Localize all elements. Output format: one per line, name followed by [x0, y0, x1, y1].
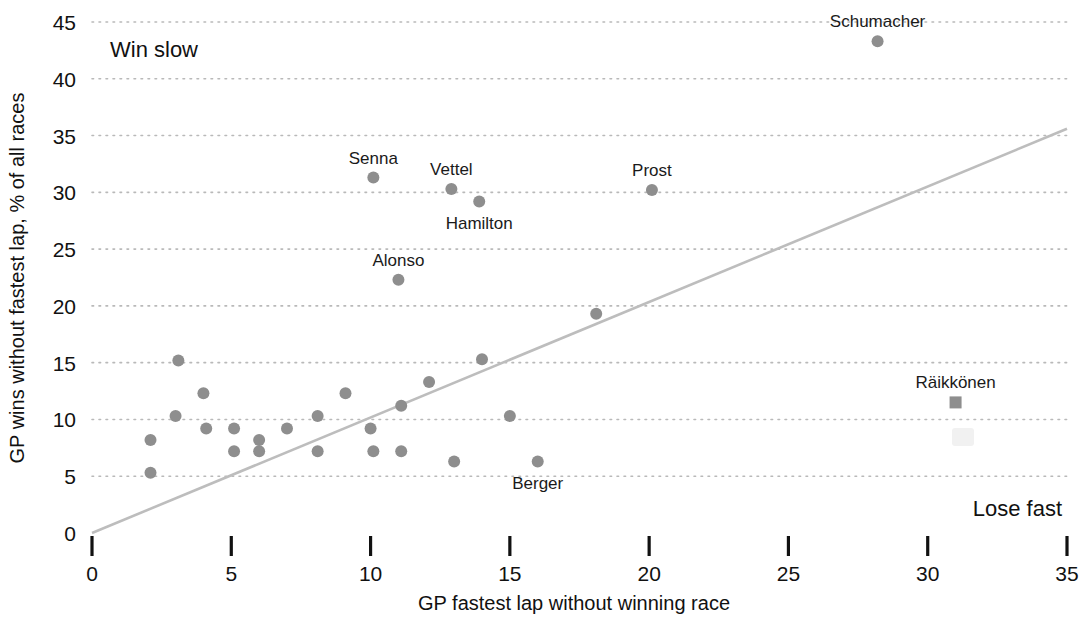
x-tick-label-35: 35: [1055, 562, 1078, 585]
data-point-unnamed-11-7[interactable]: [395, 445, 407, 457]
annotation-lose-fast: Lose fast: [973, 496, 1062, 521]
x-axis-title: GP fastest lap without winning race: [418, 592, 730, 614]
y-tick-label-10: 10: [53, 408, 76, 431]
data-point-Schumacher[interactable]: [872, 35, 884, 47]
data-point-label-Berger: Berger: [512, 474, 563, 493]
x-tick-label-20: 20: [637, 562, 660, 585]
x-tick-label-25: 25: [777, 562, 800, 585]
data-point-labels: SchumacherSennaVettelProstHamiltonAlonso…: [349, 12, 996, 493]
faint-mark: [952, 428, 974, 446]
data-point-label-Schumacher: Schumacher: [830, 12, 926, 31]
data-point-unnamed-3-15[interactable]: [172, 354, 184, 366]
y-tick-label-0: 0: [64, 522, 76, 545]
y-tick-label-30: 30: [53, 181, 76, 204]
data-point-unnamed-6-7[interactable]: [253, 445, 265, 457]
gridlines: [92, 22, 1067, 476]
x-axis-ticks: [92, 536, 1067, 556]
annotation-win-slow: Win slow: [110, 37, 198, 62]
data-point-unnamed-9-12[interactable]: [340, 387, 352, 399]
data-point-Alonso[interactable]: [392, 274, 404, 286]
scatter-chart: 051015202530354045 05101520253035 Schuma…: [0, 0, 1086, 623]
data-point-unnamed-15-10[interactable]: [504, 410, 516, 422]
data-point-unnamed-5-9[interactable]: [228, 423, 240, 435]
x-tick-label-10: 10: [359, 562, 382, 585]
data-point-unnamed-11-11[interactable]: [395, 400, 407, 412]
data-point-unnamed-6-8[interactable]: [253, 434, 265, 446]
data-point-unnamed-2-5[interactable]: [145, 467, 157, 479]
y-axis-tick-labels: 051015202530354045: [53, 11, 76, 545]
data-point-unnamed-12-13[interactable]: [423, 376, 435, 388]
x-tick-label-0: 0: [86, 562, 98, 585]
y-axis-title: GP wins without fastest lap, % of all ra…: [6, 93, 28, 464]
data-point-Hamilton[interactable]: [473, 195, 485, 207]
data-point-unnamed-8-10[interactable]: [312, 410, 324, 422]
data-point-Senna[interactable]: [367, 172, 379, 184]
y-tick-label-20: 20: [53, 295, 76, 318]
data-point-unnamed-14-15[interactable]: [476, 353, 488, 365]
data-point-unnamed-18-19[interactable]: [590, 308, 602, 320]
data-point-label-Alonso: Alonso: [372, 251, 424, 270]
plot-area: 051015202530354045 05101520253035 Schuma…: [0, 0, 1086, 623]
data-point-unnamed-2-8[interactable]: [145, 434, 157, 446]
data-point-unnamed-3-10[interactable]: [170, 410, 182, 422]
data-point-label-Senna: Senna: [349, 149, 399, 168]
data-point-Berger[interactable]: [532, 455, 544, 467]
y-tick-label-5: 5: [64, 465, 76, 488]
data-point-unnamed-10-7[interactable]: [367, 445, 379, 457]
y-tick-label-15: 15: [53, 352, 76, 375]
data-point-Prost[interactable]: [646, 184, 658, 196]
data-point-unnamed-8-7[interactable]: [312, 445, 324, 457]
data-point-unnamed-4-9[interactable]: [200, 423, 212, 435]
y-tick-label-25: 25: [53, 238, 76, 261]
data-point-unnamed-5-7[interactable]: [228, 445, 240, 457]
faint-watermark: [952, 428, 974, 446]
data-point-label-Raikkonen: Räikkönen: [915, 373, 995, 392]
data-points: [145, 35, 962, 479]
x-axis-tick-labels: 05101520253035: [86, 562, 1079, 585]
data-point-unnamed-10-9[interactable]: [365, 423, 377, 435]
y-tick-label-35: 35: [53, 125, 76, 148]
data-point-label-Prost: Prost: [632, 161, 672, 180]
data-point-label-Hamilton: Hamilton: [446, 214, 513, 233]
parity-reference-line: [92, 129, 1067, 533]
data-point-unnamed-7-9[interactable]: [281, 423, 293, 435]
data-point-unnamed-4-12[interactable]: [197, 387, 209, 399]
y-tick-label-40: 40: [53, 68, 76, 91]
x-tick-label-30: 30: [916, 562, 939, 585]
data-point-Vettel[interactable]: [445, 183, 457, 195]
data-point-label-Vettel: Vettel: [430, 160, 473, 179]
data-point-unnamed-13-6[interactable]: [448, 455, 460, 467]
x-tick-label-5: 5: [225, 562, 237, 585]
y-tick-label-45: 45: [53, 11, 76, 34]
x-tick-label-15: 15: [498, 562, 521, 585]
reference-line: [92, 129, 1067, 533]
data-point-Raikkonen[interactable]: [950, 396, 962, 408]
